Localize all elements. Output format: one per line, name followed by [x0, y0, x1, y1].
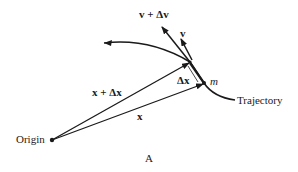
label-velocity-changed: v + Δv	[139, 8, 169, 20]
label-displacement: Δx	[177, 74, 190, 86]
trajectory-arrowhead	[104, 40, 112, 46]
label-position-displaced: x + Δx	[92, 86, 122, 98]
label-position: x	[137, 110, 143, 122]
position-vector-x-plus-dx	[52, 63, 189, 140]
panel-label: A	[145, 152, 153, 164]
label-trajectory: Trajectory	[237, 94, 283, 106]
mass-point	[202, 81, 206, 85]
label-mass: m	[210, 75, 218, 87]
trajectory-diagram: v + Δv v Δx m Trajectory x + Δx x Origin…	[0, 0, 298, 172]
label-velocity: v	[180, 27, 186, 39]
displaced-point	[188, 60, 191, 63]
origin-point	[50, 138, 54, 142]
position-vector-x	[52, 84, 203, 140]
label-origin: Origin	[16, 133, 45, 145]
velocity-vector-v-plus-dv	[162, 27, 190, 62]
trajectory-curve	[104, 42, 235, 100]
